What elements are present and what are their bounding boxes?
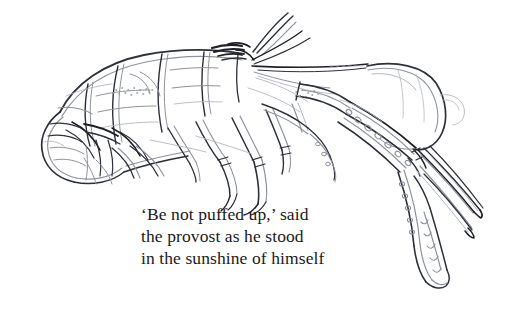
claw-spot-markings [345,108,411,166]
caption-line-2: the provost as he stood [141,225,381,247]
caption-line-1: ‘Be not puffed up,’ said [141,203,381,225]
illustration-page: ‘Be not puffed up,’ said the provost as … [0,0,527,320]
second-claw-group [262,104,336,182]
antennae-group [252,13,368,94]
stipple-texture [113,88,319,97]
caption-text-block: ‘Be not puffed up,’ said the provost as … [141,203,381,269]
lobster-sketch-artwork [0,0,527,320]
carapace-group [42,50,319,184]
caption-line-3: in the sunshine of himself [141,247,381,269]
